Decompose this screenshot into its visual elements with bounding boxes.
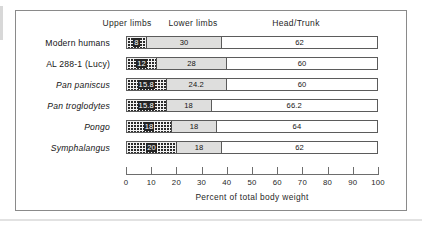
bar-row-label: Pan paniscus: [6, 78, 118, 92]
bar-row: Pan troglodytes15.81866.2: [0, 99, 422, 120]
axis-tick-label: 20: [165, 178, 187, 187]
bar-segment-value: 18: [190, 122, 199, 131]
bar-row: Modern humans83062: [0, 36, 422, 57]
column-header-row: Upper limbs Lower limbs Head/Trunk: [0, 18, 422, 32]
stacked-bar: 181864: [126, 120, 378, 133]
bar-segment-head-trunk: 62: [222, 37, 377, 48]
bar-segment-upper-limbs: 20: [127, 142, 177, 153]
bar-segment-head-trunk: 60: [227, 58, 377, 69]
bar-segment-value: 15.8: [138, 80, 155, 89]
axis-tick-label: 100: [367, 178, 389, 187]
axis-tick: [328, 167, 329, 175]
bar-segment-head-trunk: 64: [217, 121, 377, 132]
axis-tick: [252, 167, 253, 175]
axis-tick-label: 70: [291, 178, 313, 187]
bar-segment-upper-limbs: 12: [127, 58, 157, 69]
axis-tick: [151, 167, 152, 175]
stacked-bar: 15.81866.2: [126, 99, 378, 112]
column-header-lower-limbs: Lower limbs: [160, 18, 226, 28]
bar-segment-lower-limbs: 28: [157, 58, 227, 69]
bar-segment-lower-limbs: 18: [177, 142, 222, 153]
bar-segment-lower-limbs: 24.2: [167, 79, 228, 90]
axis-tick: [126, 167, 127, 175]
bar-rows: Modern humans83062AL 288-1 (Lucy)122860P…: [0, 36, 422, 162]
bar-segment-head-trunk: 60: [227, 79, 377, 90]
axis-tick: [353, 167, 354, 175]
axis-tick-label: 0: [115, 178, 137, 187]
bar-segment-value: 24.2: [189, 80, 204, 89]
bar-segment-head-trunk: 66.2: [212, 100, 377, 111]
axis-tick-label: 10: [140, 178, 162, 187]
bar-row-label: Pan troglodytes: [6, 99, 118, 113]
bar-row: AL 288-1 (Lucy)122860: [0, 57, 422, 78]
bar-segment-value: 20: [146, 143, 157, 152]
axis-tick: [202, 167, 203, 175]
bar-row: Pan paniscus15.824.260: [0, 78, 422, 99]
bar-segment-value: 62: [295, 38, 304, 47]
bar-segment-value: 8: [133, 38, 139, 47]
bar-segment-upper-limbs: 8: [127, 37, 147, 48]
bar-segment-lower-limbs: 18: [172, 121, 217, 132]
stacked-bar: 83062: [126, 36, 378, 49]
axis-tick: [277, 167, 278, 175]
bar-segment-value: 64: [293, 122, 302, 131]
figure-root: Upper limbs Lower limbs Head/Trunk Moder…: [0, 0, 422, 226]
axis-tick-label: 50: [241, 178, 263, 187]
bar-segment-value: 18: [195, 143, 204, 152]
bar-segment-upper-limbs: 15.8: [127, 100, 167, 111]
bar-segment-value: 62: [295, 143, 304, 152]
axis-tick: [176, 167, 177, 175]
axis-tick-label: 80: [317, 178, 339, 187]
bar-segment-value: 15.8: [138, 101, 155, 110]
stacked-bar: 122860: [126, 57, 378, 70]
axis-tick: [227, 167, 228, 175]
bar-segment-lower-limbs: 30: [147, 37, 222, 48]
bar-row: Pongo181864: [0, 120, 422, 141]
bar-row: Symphalangus201862: [0, 141, 422, 162]
scan-edge-mark-bottom: [0, 219, 422, 221]
bar-segment-value: 30: [180, 38, 189, 47]
bar-row-label: Pongo: [6, 120, 118, 134]
bar-segment-value: 18: [184, 101, 193, 110]
axis-tick-label: 60: [266, 178, 288, 187]
axis-tick: [302, 167, 303, 175]
axis-tick-label: 90: [342, 178, 364, 187]
stacked-bar: 15.824.260: [126, 78, 378, 91]
axis-tick-label: 30: [191, 178, 213, 187]
bar-row-label: AL 288-1 (Lucy): [6, 57, 118, 71]
bar-segment-value: 60: [298, 80, 307, 89]
axis-caption: Percent of total body weight: [86, 192, 418, 202]
bar-row-label: Symphalangus: [6, 141, 118, 155]
bar-segment-upper-limbs: 15.8: [127, 79, 167, 90]
bar-segment-value: 12: [136, 59, 147, 68]
bar-segment-value: 60: [298, 59, 307, 68]
bar-segment-value: 66.2: [287, 101, 302, 110]
stacked-bar: 201862: [126, 141, 378, 154]
bar-segment-value: 28: [187, 59, 196, 68]
bar-segment-upper-limbs: 18: [127, 121, 172, 132]
bar-segment-head-trunk: 62: [222, 142, 377, 153]
bar-segment-lower-limbs: 18: [167, 100, 212, 111]
bar-segment-value: 18: [144, 122, 155, 131]
column-header-upper-limbs: Upper limbs: [88, 18, 166, 28]
bar-row-label: Modern humans: [6, 36, 118, 50]
axis-tick-label: 40: [216, 178, 238, 187]
axis-tick: [378, 167, 379, 175]
column-header-head-trunk: Head/Trunk: [248, 18, 344, 28]
x-axis: 0102030405060708090100 Percent of total …: [126, 167, 378, 207]
